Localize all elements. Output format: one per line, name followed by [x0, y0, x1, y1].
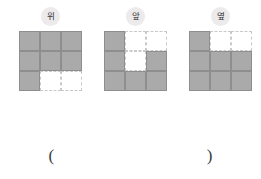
grid-cell	[104, 51, 125, 71]
grid-cell	[19, 51, 40, 71]
grid-cell	[61, 71, 82, 91]
answer-row: ( )	[0, 140, 261, 170]
view-figures-row: 위 앞	[0, 0, 261, 105]
grid-cell	[210, 51, 231, 71]
answer-blank[interactable]: ( )	[49, 147, 213, 164]
view-label-badge-front: 앞	[126, 7, 145, 26]
figure-front-view: 앞	[98, 7, 173, 91]
grid-cell	[210, 71, 231, 91]
grid-cell	[19, 31, 40, 51]
grid-cell	[189, 51, 210, 71]
grid-cell	[146, 31, 167, 51]
grid-cell	[189, 71, 210, 91]
grid-cell	[231, 31, 252, 51]
open-paren: (	[49, 147, 55, 164]
grid-cell	[40, 31, 61, 51]
grid-cell	[40, 71, 61, 91]
grid-cell	[19, 71, 40, 91]
close-paren: )	[207, 147, 213, 164]
grid-front-view	[104, 31, 167, 91]
grid-cell	[104, 31, 125, 51]
worksheet: 위 앞	[0, 0, 261, 179]
grid-top-view	[19, 31, 82, 91]
grid-cell	[125, 71, 146, 91]
grid-cell	[125, 31, 146, 51]
grid-cell	[104, 71, 125, 91]
figure-top-view: 위	[13, 7, 88, 91]
view-label-badge-side: 옆	[211, 7, 230, 26]
grid-cell	[40, 51, 61, 71]
grid-cell	[146, 51, 167, 71]
figure-side-view: 옆	[183, 7, 258, 91]
grid-cell	[231, 51, 252, 71]
grid-cell	[125, 51, 146, 71]
grid-cell	[210, 31, 231, 51]
grid-cell	[146, 71, 167, 91]
grid-side-view	[189, 31, 252, 91]
grid-cell	[231, 71, 252, 91]
view-label-badge-top: 위	[41, 7, 60, 26]
grid-cell	[61, 51, 82, 71]
grid-cell	[189, 31, 210, 51]
grid-cell	[61, 31, 82, 51]
